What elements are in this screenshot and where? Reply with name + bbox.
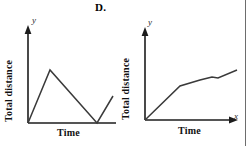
y-axis-arrowhead-d	[142, 27, 149, 36]
y-axis-arrowhead-c	[25, 25, 32, 34]
y-axis-title-d: Total distance	[121, 58, 131, 120]
chart-panel-c: y Time Total distance	[0, 0, 126, 146]
chart-panel-d: y x Time Total distance	[126, 0, 252, 146]
figure-container: . D. y Time Total distance y	[0, 0, 252, 146]
y-axis-title-c: Total distance	[4, 60, 14, 122]
data-line-d	[145, 70, 237, 120]
data-line-c	[28, 70, 113, 123]
chart-c-svg	[0, 0, 126, 146]
page-border-rule	[245, 0, 246, 146]
x-axis-title-c: Time	[57, 128, 80, 138]
x-axis-title-d: Time	[178, 126, 201, 136]
y-axis-symbol-c: y	[32, 16, 36, 25]
y-axis-symbol-d: y	[148, 18, 152, 27]
x-axis-symbol-d: x	[234, 112, 238, 121]
